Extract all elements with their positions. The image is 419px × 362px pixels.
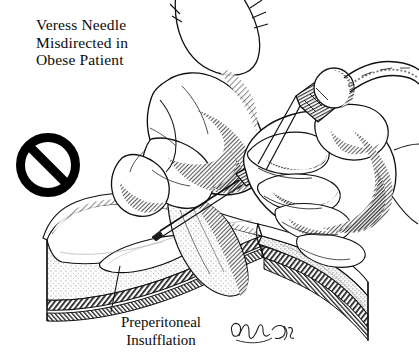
figure-title-line-3: Obese Patient xyxy=(36,51,196,69)
figure-title-line-2: Misdirected in xyxy=(36,34,196,52)
figure-caption-line-1: Preperitoneal xyxy=(86,314,236,332)
figure-title-line-1: Veress Needle xyxy=(36,16,196,34)
illustration-figure: Veress Needle Misdirected in Obese Patie… xyxy=(0,0,419,362)
figure-title: Veress Needle Misdirected in Obese Patie… xyxy=(36,16,196,69)
figure-caption-line-2: Insufflation xyxy=(86,332,236,350)
figure-caption: Preperitoneal Insufflation xyxy=(86,314,236,349)
